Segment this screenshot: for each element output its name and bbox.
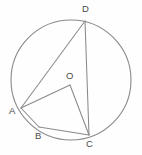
point-label-d: D — [82, 4, 89, 14]
chord-dc — [85, 21, 89, 135]
chord-bc — [39, 127, 89, 135]
radius-oa — [21, 85, 70, 108]
chord-da — [21, 21, 85, 108]
circle-geometry-figure: D O A B C — [0, 0, 142, 155]
radius-oc — [70, 85, 89, 135]
point-label-b: B — [35, 131, 41, 141]
point-label-a: A — [9, 106, 15, 116]
point-label-c: C — [86, 139, 93, 149]
point-label-o: O — [66, 71, 73, 81]
